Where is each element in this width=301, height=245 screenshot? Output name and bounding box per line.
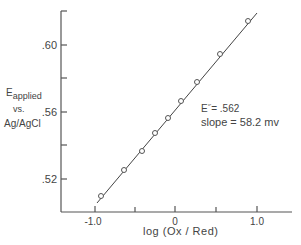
data-point [140,149,145,154]
x-tick-label: -1.0 [78,216,108,227]
x-tick-label: 1.0 [242,216,272,227]
data-point [195,80,200,85]
y-ticks [61,11,67,179]
x-ticks [95,206,257,212]
data-point [246,19,251,24]
y-axis-label-line1: Eapplied [6,88,42,98]
data-point [122,168,127,173]
data-point [153,131,158,136]
annot-value: = .562 [211,103,239,114]
x-axis-label: log (Ox / Red) [143,226,218,237]
annotation-e-formal: E°'= .562 [201,103,239,114]
annot-e: E [201,103,208,114]
data-point [99,194,104,199]
annotation-slope: slope = 58.2 mv [201,117,279,128]
data-point [179,99,184,104]
y-tick-label: .56 [27,106,57,118]
data-point [218,52,223,57]
y-label-subscript: applied [13,91,42,101]
y-label-e: E [6,87,13,98]
y-tick-label: .52 [27,173,57,185]
y-axis-label-line3: Ag/AgCl [4,119,41,129]
y-axis-label-line2: vs. [13,105,25,114]
y-tick-label: .60 [27,39,57,51]
data-point [166,116,171,121]
